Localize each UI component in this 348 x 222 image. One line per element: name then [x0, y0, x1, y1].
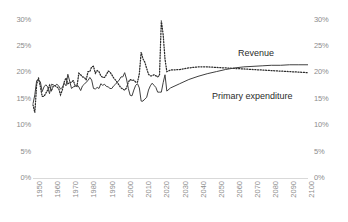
- x-axis-tick: 2010: [145, 181, 153, 198]
- y-axis-tick-left: 0%: [7, 174, 31, 182]
- x-axis-tick: 2050: [218, 181, 226, 198]
- y-axis-tick-left: 10%: [7, 121, 31, 129]
- y-axis-tick-left: 15%: [7, 95, 31, 103]
- y-axis-tick-left: 25%: [7, 42, 31, 50]
- y-axis-tick-right: 15%: [314, 95, 340, 103]
- x-axis-tick: 2030: [182, 181, 190, 198]
- x-axis-tick: 2070: [254, 181, 262, 198]
- series-label-revenue: Revenue: [238, 48, 274, 58]
- y-axis-tick-right: 25%: [314, 42, 340, 50]
- y-axis-tick-left: 5%: [7, 148, 31, 156]
- x-axis-tick: 2100: [308, 181, 316, 198]
- x-axis-line: [33, 178, 308, 179]
- y-axis-tick-right: 0%: [314, 174, 340, 182]
- y-axis-tick-right: 5%: [314, 148, 340, 156]
- x-axis-tick: 2000: [127, 181, 135, 198]
- y-axis-tick-right: 10%: [314, 121, 340, 129]
- chart-container: 30% 25% 20% 15% 10% 5% 0% 30% 25% 20% 15…: [0, 0, 348, 222]
- x-axis-tick: 2040: [200, 181, 208, 198]
- x-axis-tick: 1950: [36, 181, 44, 198]
- x-axis-tick: 2020: [163, 181, 171, 198]
- x-axis-tick: 1990: [109, 181, 117, 198]
- y-axis-tick-right: 30%: [314, 16, 340, 24]
- x-axis-tick: 2090: [290, 181, 298, 198]
- x-axis-tick: 2080: [272, 181, 280, 198]
- y-axis-tick-right: 20%: [314, 68, 340, 76]
- series-label-primary-expenditure: Primary expenditure: [212, 91, 293, 101]
- x-axis-tick: 1960: [54, 181, 62, 198]
- y-axis-tick-left: 30%: [7, 16, 31, 24]
- x-axis-tick: 1970: [72, 181, 80, 198]
- y-axis-tick-left: 20%: [7, 68, 31, 76]
- x-axis-tick: 1980: [90, 181, 98, 198]
- x-axis-tick: 2060: [236, 181, 244, 198]
